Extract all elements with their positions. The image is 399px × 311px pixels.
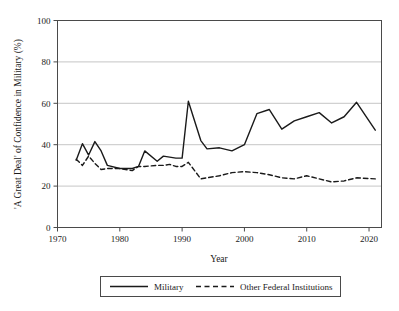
x-tick-label: 2000 [235,234,254,244]
legend: Military Other Federal Institutions [101,277,341,297]
y-tick-label: 0 [46,223,51,233]
y-tick-label: 80 [42,57,52,67]
x-tick-label: 1990 [173,234,192,244]
legend-label-military: Military [154,282,184,292]
chart-figure: 020406080100 197019801990200020102020 'A… [0,0,399,311]
y-tick-label: 100 [37,16,51,26]
y-axis-title: 'A Great Deal' of Confidence in Military… [13,39,24,209]
legend-label-other-federal-institutions: Other Federal Institutions [240,282,333,292]
y-tick-label: 60 [42,99,52,109]
x-tick-label: 2020 [360,234,379,244]
y-tick-label: 20 [42,181,52,191]
y-tick-label: 40 [42,140,52,150]
x-axis-title: Year [210,254,228,264]
chart-background [0,0,399,311]
x-tick-label: 1970 [49,234,68,244]
line-chart: 020406080100 197019801990200020102020 'A… [0,0,399,311]
x-tick-label: 1980 [111,234,130,244]
x-tick-label: 2010 [298,234,317,244]
